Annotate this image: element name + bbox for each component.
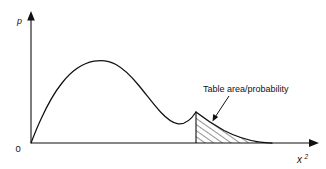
- x-axis-label: x: [296, 154, 303, 165]
- x-axis-label-exponent: 2: [304, 153, 309, 160]
- tail-area-callout-label: Table area/probability: [203, 84, 289, 94]
- origin-label: 0: [16, 143, 21, 154]
- y-axis-label: p: [16, 16, 22, 26]
- chi-square-tail-area-figure: p 0 x 2 Table area/probability: [0, 0, 326, 169]
